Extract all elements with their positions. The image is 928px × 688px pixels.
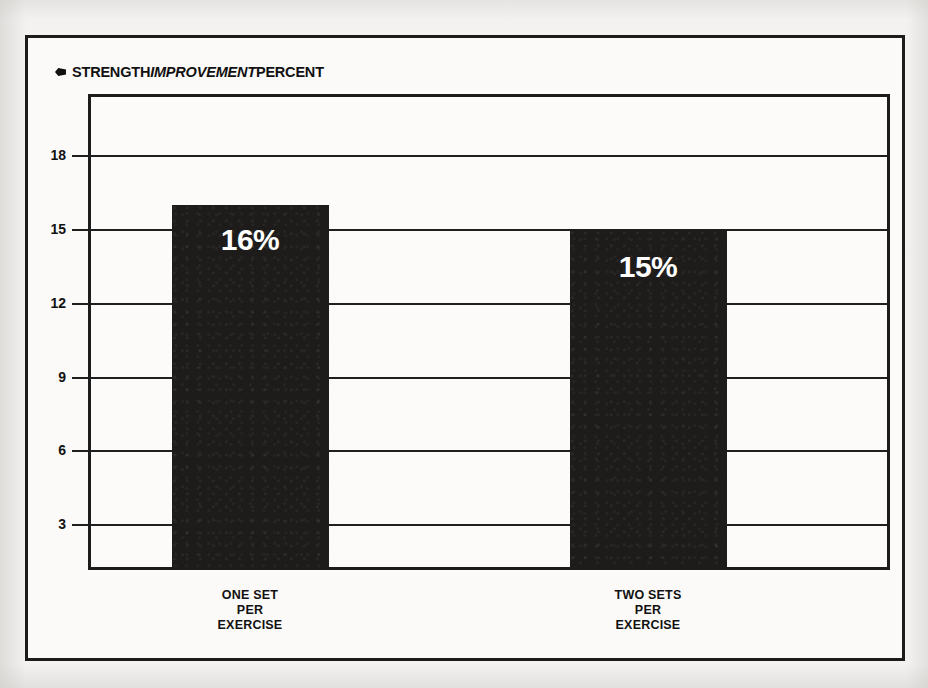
y-tick-9 — [72, 377, 88, 379]
y-tick-label-9: 9 — [32, 369, 66, 385]
category-label-two-sets: TWO SETSPEREXERCISE — [538, 588, 758, 633]
category-label-line-2: EXERCISE — [538, 618, 758, 633]
y-tick-label-12: 12 — [32, 295, 66, 311]
y-tick-15 — [72, 229, 88, 231]
title-lead: STRENGTH — [72, 64, 150, 80]
bar-two-sets-per-exercise[interactable]: 15% — [570, 230, 727, 567]
y-tick-6 — [72, 450, 88, 452]
plot-inner: 16% 15% — [91, 97, 887, 567]
category-label-line-2: EXERCISE — [140, 618, 360, 633]
y-tick-18 — [72, 155, 88, 157]
gridline-18 — [91, 155, 887, 157]
bar-value-label-0: 16% — [172, 223, 329, 257]
bar-one-set-per-exercise[interactable]: 16% — [172, 205, 329, 567]
category-label-line-0: ONE SET — [140, 588, 360, 603]
bar-value-label-1: 15% — [570, 250, 727, 284]
category-label-line-1: PER — [140, 603, 360, 618]
title-trail: PERCENT — [256, 64, 324, 80]
y-tick-label-15: 15 — [32, 221, 66, 237]
chart-title-text: STRENGTHIMPROVEMENTPERCENT — [72, 64, 324, 80]
y-tick-label-6: 6 — [32, 442, 66, 458]
y-tick-label-3: 3 — [32, 516, 66, 532]
plot-area: 16% 15% — [88, 94, 890, 570]
category-label-line-0: TWO SETS — [538, 588, 758, 603]
category-label-one-set: ONE SETPEREXERCISE — [140, 588, 360, 633]
y-tick-12 — [72, 303, 88, 305]
category-label-line-1: PER — [538, 603, 758, 618]
y-tick-label-18: 18 — [32, 147, 66, 163]
diamond-bullet-icon — [55, 68, 66, 76]
title-emphasis: IMPROVEMENT — [150, 64, 256, 80]
chart-title: STRENGTHIMPROVEMENTPERCENT — [55, 62, 324, 82]
y-tick-3 — [72, 524, 88, 526]
